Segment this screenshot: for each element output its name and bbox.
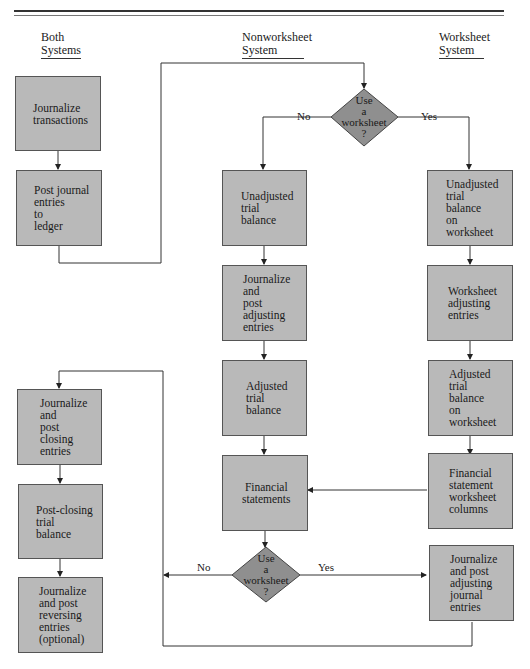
decision-bottom-no: No (197, 561, 210, 573)
step-adjusted-trial-balance: Adjusted trial balance (222, 360, 307, 436)
step-unadjusted-trial-balance: Unadjusted trial balance (222, 170, 307, 246)
step-journalize-transactions: Journalize transactions (15, 76, 101, 151)
decision-bottom-label: Use a worksheet ? (232, 553, 300, 597)
step-journalize-post-reversing: Journalize and post reversing entries (o… (18, 577, 103, 653)
step-post-to-ledger: Post journal entries to ledger (16, 170, 102, 246)
decision-top-yes: Yes (421, 110, 437, 122)
step-fs-worksheet-columns: Financial statement worksheet columns (428, 453, 513, 529)
step-journalize-post-closing: Journalize and post closing entries (17, 389, 102, 465)
step-worksheet-adjusting-entries: Worksheet adjusting entries (427, 265, 513, 341)
step-journalize-post-adjusting: Journalize and post adjusting entries (222, 265, 307, 341)
decision-bottom-yes: Yes (318, 561, 334, 573)
step-post-closing-trial-balance: Post-closing trial balance (18, 484, 103, 559)
decision-top-no: No (297, 110, 310, 122)
step-adjusted-tb-worksheet: Adjusted trial balance on worksheet (428, 360, 513, 436)
step-journalize-post-adjusting-journal: Journalize and post adjusting journal en… (429, 545, 514, 621)
step-unadjusted-tb-worksheet: Unadjusted trial balance on worksheet (427, 170, 513, 246)
decision-top-label: Use a worksheet ? (330, 95, 398, 139)
step-financial-statements: Financial statements (222, 455, 308, 531)
